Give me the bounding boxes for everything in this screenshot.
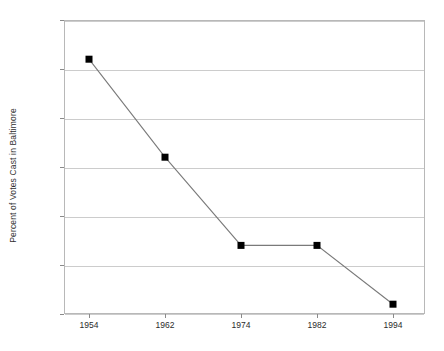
x-tick-label-1982: 1982 (308, 320, 327, 330)
x-tick-label-1994: 1994 (384, 320, 403, 330)
gridline-25 (65, 168, 424, 169)
y-tick-mark-20 (60, 216, 64, 217)
x-tick-mark-1954 (89, 314, 90, 318)
gridline-20 (65, 217, 424, 218)
gridline-30 (65, 119, 424, 120)
x-tick-mark-1982 (317, 314, 318, 318)
y-tick-mark-30 (60, 118, 64, 119)
gridline-40 (65, 21, 424, 22)
line-chart: Percent of Votes Cast in Baltimore 40 35… (0, 0, 444, 351)
x-tick-mark-1994 (393, 314, 394, 318)
y-tick-mark-15 (60, 265, 64, 266)
y-tick-mark-10 (60, 314, 64, 315)
y-axis-title: Percent of Votes Cast in Baltimore (0, 0, 26, 351)
x-tick-label-1954: 1954 (80, 320, 99, 330)
y-tick-mark-35 (60, 69, 64, 70)
gridline-15 (65, 266, 424, 267)
gridline-35 (65, 70, 424, 71)
x-tick-label-1974: 1974 (232, 320, 251, 330)
plot-area (64, 20, 425, 314)
x-tick-label-1962: 1962 (156, 320, 175, 330)
y-tick-mark-25 (60, 167, 64, 168)
x-tick-mark-1974 (241, 314, 242, 318)
y-tick-mark-40 (60, 20, 64, 21)
gridline-10 (65, 314, 424, 315)
x-tick-mark-1962 (165, 314, 166, 318)
